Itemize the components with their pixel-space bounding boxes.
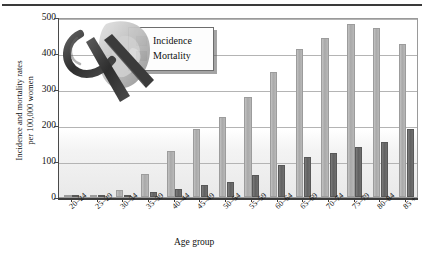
y-tick-mark-200 [54,126,58,127]
x-axis-title: Age group [174,237,214,247]
awareness-ribbon-illustration [60,16,165,116]
bar-incidence [373,28,380,197]
y-tick-mark-500 [54,18,58,19]
bar-incidence [193,129,200,197]
bar-mortality [407,129,414,197]
bar-mortality [278,165,285,197]
bar-incidence [64,195,71,197]
y-axis-title-line-2: per 100,000 women [24,23,35,199]
y-axis-line [58,18,59,199]
bar-incidence [347,24,354,197]
bar-incidence [219,117,226,197]
bar-mortality [355,147,362,197]
y-tick-mark-0 [54,198,58,199]
bar-mortality [381,142,388,197]
bar-incidence [116,190,123,197]
bar-incidence [270,72,277,197]
y-axis-title-line-1: Incidence and mortality rates [14,23,25,199]
bar-incidence [321,38,328,197]
bar-incidence [167,151,174,197]
bar-incidence [90,195,97,197]
chart-figure: 5004003002001000 Incidence and mortality… [0,0,424,255]
ribbon-woman-icon [60,16,165,116]
bar-mortality [304,157,311,197]
gridline-100 [59,163,417,164]
bar-incidence [296,49,303,197]
bar-mortality [330,153,337,197]
bar-incidence [141,174,148,197]
bar-incidence [399,44,406,197]
top-divider-rule [2,4,422,6]
y-axis-title: Incidence and mortality rates per 100,00… [14,23,35,199]
y-tick-mark-100 [54,162,58,163]
y-tick-label-500: 500 [30,13,56,23]
bar-incidence [244,97,251,197]
gridline-200 [59,127,417,128]
y-tick-mark-300 [54,90,58,91]
y-tick-mark-400 [54,54,58,55]
